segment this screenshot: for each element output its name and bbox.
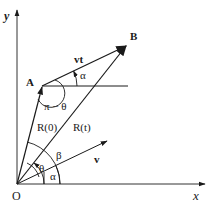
x-axis-label: x xyxy=(192,188,199,203)
angle-alpha-top-label: α xyxy=(80,69,86,81)
y-axis-label: y xyxy=(2,9,10,23)
vector-v-label: v xyxy=(94,153,100,165)
vector-diagram: y x O A B vt R(0) R(t) v α π − θ θ β α xyxy=(0,0,212,206)
angle-theta-label: θ xyxy=(39,162,44,174)
origin-label: O xyxy=(12,189,21,203)
angle-alpha-bottom-label: α xyxy=(50,170,56,182)
point-a-label: A xyxy=(26,76,34,88)
angle-arc-alpha-bottom xyxy=(56,166,60,184)
vector-vt-label: vt xyxy=(74,53,84,65)
angle-pi-minus-theta-label: π − θ xyxy=(44,100,67,112)
angle-beta-label: β xyxy=(56,149,62,161)
vector-rt-label: R(t) xyxy=(73,121,91,134)
vector-rt xyxy=(17,46,126,184)
vector-r0-label: R(0) xyxy=(37,121,58,134)
point-b-label: B xyxy=(130,30,138,42)
angle-arc-alpha-top xyxy=(74,71,77,86)
